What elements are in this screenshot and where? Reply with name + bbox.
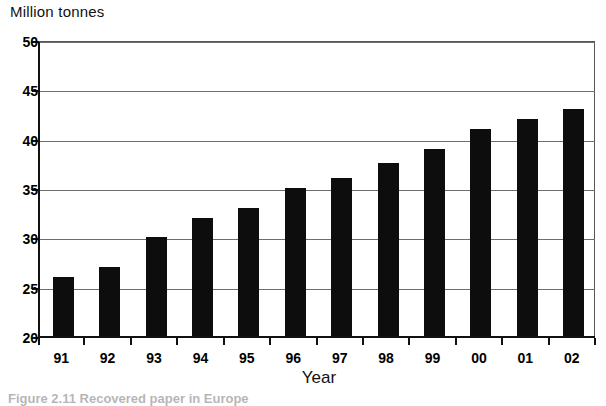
bar-91 (53, 277, 74, 336)
x-tick-mark (223, 338, 225, 345)
y-tick-label: 45 (8, 83, 38, 99)
bar-99 (424, 149, 445, 336)
bar-98 (378, 163, 399, 336)
x-axis-ticks (38, 338, 595, 348)
x-axis-title: Year (0, 368, 606, 388)
bar-94 (192, 218, 213, 336)
x-tick-label-95: 95 (227, 350, 267, 366)
bar-97 (331, 178, 352, 336)
x-tick-mark (176, 338, 178, 345)
x-axis-title-text: Year (302, 368, 336, 387)
gridline (40, 42, 595, 43)
gridline (40, 141, 595, 142)
x-tick-mark (501, 338, 503, 345)
x-tick-label-98: 98 (366, 350, 406, 366)
x-tick-mark (38, 338, 40, 345)
plot-area (38, 42, 595, 338)
x-tick-mark (362, 338, 364, 345)
x-tick-label-94: 94 (180, 350, 220, 366)
y-tick-label: 35 (8, 182, 38, 198)
x-tick-label-91: 91 (41, 350, 81, 366)
bar-96 (285, 188, 306, 336)
y-axis-ticks: 20253035404550 (0, 42, 38, 339)
x-tick-label-00: 00 (459, 350, 499, 366)
x-tick-mark (455, 338, 457, 345)
bar-02 (563, 109, 584, 336)
y-tick-label: 25 (8, 281, 38, 297)
y-tick-label: 50 (8, 34, 38, 50)
x-tick-mark (130, 338, 132, 345)
x-axis-labels: 919293949596979899000102 (38, 350, 595, 370)
gridline (40, 289, 595, 290)
bar-00 (470, 129, 491, 336)
x-tick-mark (269, 338, 271, 345)
x-tick-label-92: 92 (88, 350, 128, 366)
figure-caption: Figure 2.11 Recovered paper in Europe (8, 393, 249, 406)
gridline (40, 239, 595, 240)
x-tick-mark (594, 338, 596, 345)
x-tick-mark (548, 338, 550, 345)
bar-92 (99, 267, 120, 336)
bar-93 (146, 237, 167, 336)
bar-95 (238, 208, 259, 336)
y-tick-label: 40 (8, 133, 38, 149)
x-tick-label-97: 97 (320, 350, 360, 366)
y-tick-label: 30 (8, 231, 38, 247)
x-tick-mark (316, 338, 318, 345)
y-axis-unit-title: Million tonnes (10, 3, 105, 20)
gridline (40, 91, 595, 92)
x-tick-label-96: 96 (273, 350, 313, 366)
x-tick-mark (408, 338, 410, 345)
x-tick-label-93: 93 (134, 350, 174, 366)
x-tick-mark (83, 338, 85, 345)
gridline (40, 190, 595, 191)
x-tick-label-99: 99 (413, 350, 453, 366)
y-tick-label: 20 (8, 330, 38, 346)
figure-caption-container: Figure 2.11 Recovered paper in Europe (8, 393, 348, 406)
bar-01 (517, 119, 538, 336)
x-tick-label-02: 02 (552, 350, 592, 366)
x-tick-label-01: 01 (505, 350, 545, 366)
